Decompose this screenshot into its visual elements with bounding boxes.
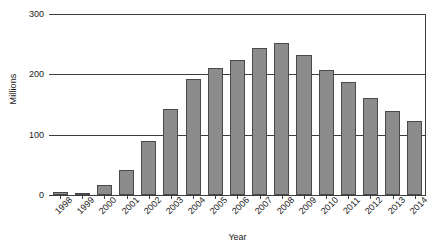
- x-tick-slot: 2014: [404, 200, 426, 234]
- bar-2001: [119, 170, 134, 195]
- x-axis-tick-labels: 1998199920002001200220032004200520062007…: [49, 200, 426, 234]
- x-tick-slot: 2011: [337, 200, 359, 234]
- plot-area: 0100200300: [49, 14, 426, 196]
- x-tick-slot: 1999: [71, 200, 93, 234]
- bar-2010: [319, 70, 334, 195]
- bar-2006: [230, 60, 245, 195]
- x-tick-slot: 2006: [226, 200, 248, 234]
- bar-slot: [204, 14, 226, 195]
- y-axis-title: Millions: [8, 54, 18, 124]
- x-tick-slot: 2000: [93, 200, 115, 234]
- x-tick-slot: 1998: [49, 200, 71, 234]
- y-tick-label: 300: [29, 9, 44, 19]
- bar-slot: [160, 14, 182, 195]
- bar-slot: [49, 14, 71, 195]
- bar-slot: [315, 14, 337, 195]
- bar-2007: [252, 48, 267, 195]
- bar-series: [49, 14, 426, 195]
- bar-slot: [293, 14, 315, 195]
- bar-slot: [226, 14, 248, 195]
- x-tick-slot: 2013: [382, 200, 404, 234]
- x-tick-slot: 2009: [293, 200, 315, 234]
- x-axis-line: [49, 195, 426, 196]
- bar-2000: [97, 185, 112, 195]
- x-tick-slot: 2001: [116, 200, 138, 234]
- x-tick-slot: 2008: [271, 200, 293, 234]
- x-tick-slot: 2002: [138, 200, 160, 234]
- bar-slot: [404, 14, 426, 195]
- bar-slot: [359, 14, 381, 195]
- bar-2012: [363, 98, 378, 195]
- x-tick-slot: 2003: [160, 200, 182, 234]
- bar-slot: [116, 14, 138, 195]
- bar-slot: [271, 14, 293, 195]
- x-axis-title: Year: [49, 232, 426, 242]
- bar-slot: [71, 14, 93, 195]
- bar-2014: [407, 121, 422, 195]
- y-tick-label: 0: [39, 190, 44, 200]
- bar-slot: [182, 14, 204, 195]
- bar-2004: [186, 79, 201, 195]
- bar-2005: [208, 68, 223, 195]
- bar-2013: [385, 111, 400, 195]
- bar-slot: [93, 14, 115, 195]
- x-tick-slot: 2005: [204, 200, 226, 234]
- x-tick-slot: 2010: [315, 200, 337, 234]
- bar-slot: [337, 14, 359, 195]
- bar-slot: [249, 14, 271, 195]
- x-tick-slot: 2004: [182, 200, 204, 234]
- bar-2002: [141, 141, 156, 195]
- bar-2009: [296, 55, 311, 195]
- right-axis-line: [425, 14, 426, 196]
- bar-2003: [163, 109, 178, 195]
- x-tick-slot: 2007: [249, 200, 271, 234]
- y-tick-label: 200: [29, 69, 44, 79]
- bar-slot: [382, 14, 404, 195]
- bar-slot: [138, 14, 160, 195]
- y-tick-label: 100: [29, 130, 44, 140]
- bar-2008: [274, 43, 289, 195]
- x-tick-label-2014: 2014: [408, 195, 429, 216]
- bar-chart: Millions 0100200300 19981999200020012002…: [0, 0, 435, 248]
- x-tick-slot: 2012: [359, 200, 381, 234]
- bar-2011: [341, 82, 356, 195]
